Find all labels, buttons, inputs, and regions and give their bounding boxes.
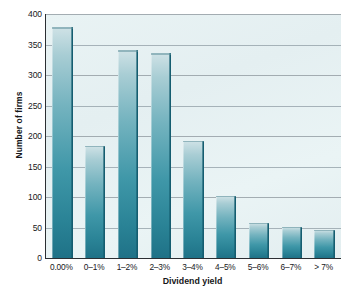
x-tick-label: 2–3% xyxy=(149,262,170,272)
bar xyxy=(249,223,269,258)
x-tick-label: > 7% xyxy=(314,262,333,272)
bar xyxy=(314,230,334,258)
plot-area xyxy=(45,14,341,259)
x-tick-label: 4–5% xyxy=(215,262,236,272)
y-tick-label: 200 xyxy=(14,131,42,141)
y-tick-label: 150 xyxy=(14,162,42,172)
x-axis-title: Dividend yield xyxy=(45,276,340,286)
y-tick-label: 350 xyxy=(14,40,42,50)
x-axis-tick-labels: 0.00%0–1%1–2%2–3%3–4%4–5%5–6%6–7%> 7% xyxy=(45,262,340,276)
x-tick-label: 0–1% xyxy=(84,262,105,272)
x-tick-label: 0.00% xyxy=(50,262,73,272)
x-tick-label: 6–7% xyxy=(281,262,302,272)
y-tick-label: 50 xyxy=(14,223,42,233)
figure-caption xyxy=(45,295,343,303)
bar xyxy=(118,50,138,258)
bar xyxy=(216,196,236,258)
bar xyxy=(151,53,171,258)
bar xyxy=(282,227,302,258)
y-axis-tick-labels: 050100150200250300350400 xyxy=(14,0,42,303)
bar xyxy=(85,146,105,258)
y-tick-label: 400 xyxy=(14,9,42,19)
x-tick-label: 3–4% xyxy=(182,262,203,272)
bar-chart-figure: Number of firms 050100150200250300350400… xyxy=(0,0,343,303)
y-tick-label: 0 xyxy=(14,253,42,263)
x-tick-label: 1–2% xyxy=(117,262,138,272)
bar xyxy=(52,27,72,258)
x-tick-label: 5–6% xyxy=(248,262,269,272)
y-tick-label: 100 xyxy=(14,192,42,202)
y-tick-label: 300 xyxy=(14,70,42,80)
bar xyxy=(183,141,203,258)
y-tick-label: 250 xyxy=(14,101,42,111)
bar-series xyxy=(46,14,341,258)
